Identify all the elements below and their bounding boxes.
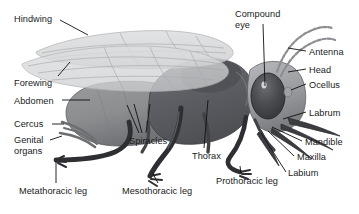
label-ocellus: Ocellus xyxy=(309,80,340,91)
label-metathoracic-leg: Metathoracic leg xyxy=(19,186,87,197)
label-maxilla: Maxilla xyxy=(297,152,326,163)
label-antenna: Antenna xyxy=(309,47,344,58)
label-forewing: Forewing xyxy=(14,78,52,89)
label-labrum: Labrum xyxy=(309,108,340,119)
label-abdomen: Abdomen xyxy=(14,96,54,107)
insect-body-group xyxy=(22,27,340,186)
label-prothoracic-leg: Prothoracic leg xyxy=(216,176,278,187)
label-cercus: Cercus xyxy=(14,119,43,130)
leader-genital-organs xyxy=(50,136,62,140)
label-compound-eye: Compound eye xyxy=(235,9,280,30)
label-labium: Labium xyxy=(288,168,318,179)
insect-illustration xyxy=(0,0,359,214)
compound-eye-highlight xyxy=(261,82,266,89)
label-genital-organs: Genital organs xyxy=(14,135,43,156)
label-thorax: Thorax xyxy=(192,151,221,162)
mesothoracic-tarsus xyxy=(149,174,162,186)
insect-anatomy-figure: Hindwing Forewing Abdomen Cercus Genital… xyxy=(0,0,359,214)
wings-group xyxy=(22,31,233,92)
label-mesothoracic-leg: Mesothoracic leg xyxy=(122,186,192,197)
compound-eye-shape xyxy=(251,73,285,119)
ocellus-shape xyxy=(284,87,292,97)
label-mandible: Mandible xyxy=(305,137,343,148)
label-spiracles: Spiracles xyxy=(129,136,167,147)
label-head: Head xyxy=(309,65,331,76)
label-hindwing: Hindwing xyxy=(14,14,52,25)
leader-hindwing xyxy=(60,20,88,35)
